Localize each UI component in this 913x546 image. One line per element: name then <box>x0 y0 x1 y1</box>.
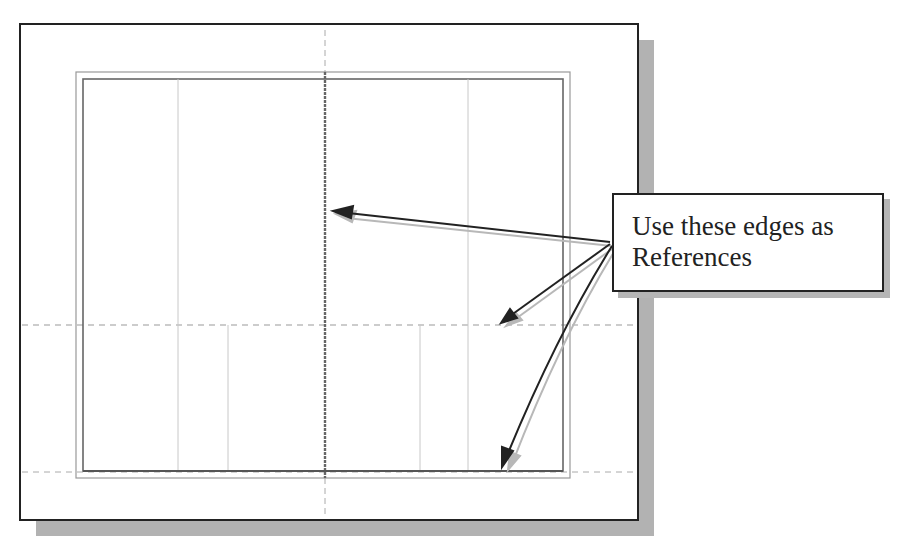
viewport-frame <box>20 24 638 520</box>
callout-line-2: References <box>632 242 882 273</box>
callout-line-1: Use these edges as <box>632 211 882 242</box>
diagram-canvas: Use these edges as References <box>0 0 913 546</box>
callout-box: Use these edges as References <box>612 193 884 292</box>
